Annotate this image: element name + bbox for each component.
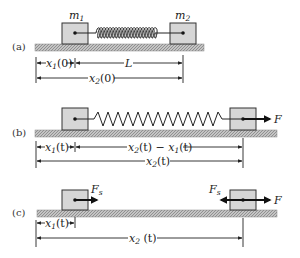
dim-label-x2-t-c: x2 (t) <box>129 232 157 246</box>
dim-label-L: L <box>124 57 132 70</box>
panel-b: (b) F x1(t) x2(t) − x1(t) x2(t) <box>12 108 282 169</box>
dim-label-x1-t-b: x1(t) <box>45 141 69 155</box>
panel-a: (a) m1 m2 x1(0) L x2(0) <box>12 9 204 86</box>
panel-label-b: (b) <box>12 127 26 138</box>
force-F-label-c: F <box>273 194 282 207</box>
dim-label-x2-t-b: x2(t) <box>146 155 170 169</box>
panel-label-a: (a) <box>12 41 26 52</box>
ground-c <box>37 210 277 217</box>
spring-b <box>75 112 243 126</box>
spring-force-label-m2: Fs <box>208 183 221 197</box>
dim-label-x2-0: x2(0) <box>89 72 116 86</box>
force-F-label-b: F <box>273 113 282 126</box>
spring-a <box>75 28 183 39</box>
dim-label-x1-0: x1(0) <box>46 57 73 71</box>
mass-m1-label: m1 <box>69 9 84 23</box>
panel-label-c: (c) <box>12 207 26 218</box>
panel-c: (c) Fs Fs F x1(t) x2 (t) <box>12 183 282 247</box>
two-mass-spring-diagram: (a) m1 m2 x1(0) L x2(0) (b) <box>0 0 300 258</box>
dim-label-x2-minus-x1: x2(t) − x1(t) <box>128 141 192 155</box>
mass-m2-label: m2 <box>175 9 190 23</box>
dim-label-x1-t-c: x1(t) <box>45 217 69 231</box>
ground-b <box>35 130 277 137</box>
ground-a <box>35 44 204 51</box>
spring-force-label-m1: Fs <box>90 183 103 197</box>
